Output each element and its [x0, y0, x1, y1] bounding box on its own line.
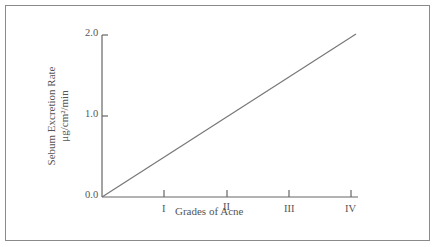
x-tick-1: I	[162, 203, 166, 214]
x-tick-4: IV	[345, 203, 356, 214]
y-tick-1: 1.0	[85, 108, 98, 119]
x-tick-3: III	[284, 203, 295, 214]
data-line	[102, 34, 356, 197]
y-axis-label: Sebum Excretion Rate μg/cm²/min	[45, 67, 71, 166]
x-axis-label: Grades of Acne	[175, 205, 243, 217]
y-tick-2: 2.0	[85, 27, 98, 38]
y-tick-0: 0.0	[85, 189, 98, 200]
